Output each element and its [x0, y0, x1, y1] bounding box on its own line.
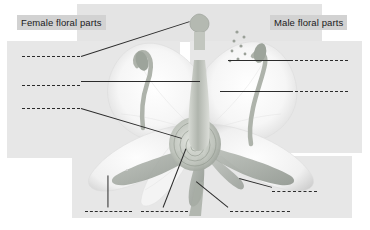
bottom-blank-1[interactable]	[85, 211, 132, 212]
panel-female-section	[7, 41, 180, 158]
leader-filament	[220, 91, 290, 92]
bottom-blank-4[interactable]	[272, 191, 317, 192]
flower-anatomy-worksheet: Female floral parts Male floral parts	[0, 0, 370, 230]
leader-petal	[108, 175, 109, 207]
male-blank-2[interactable]	[290, 91, 348, 92]
bottom-blank-2[interactable]	[141, 211, 188, 212]
leader-style	[81, 81, 200, 82]
section-header-female: Female floral parts	[17, 15, 106, 30]
panel-male-section	[190, 41, 362, 153]
female-blank-1[interactable]	[22, 56, 80, 57]
male-blank-1[interactable]	[290, 60, 348, 61]
section-header-male: Male floral parts	[270, 15, 347, 30]
bottom-blank-3[interactable]	[230, 211, 290, 212]
female-blank-2[interactable]	[22, 85, 80, 86]
leader-anther	[228, 60, 290, 61]
panel-bottom-section	[72, 156, 352, 218]
female-blank-3[interactable]	[22, 108, 80, 109]
